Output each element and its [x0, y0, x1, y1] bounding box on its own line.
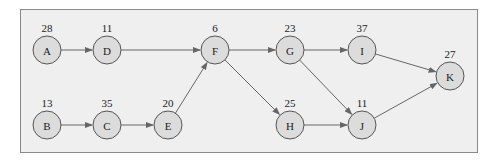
node-label: K	[446, 71, 454, 83]
node-label: G	[286, 45, 294, 57]
node-j: J11	[348, 97, 376, 139]
edge-e-f	[175, 63, 207, 113]
duration-label: 6	[212, 22, 218, 34]
duration-label: 20	[163, 97, 175, 109]
edges-layer	[61, 50, 437, 125]
node-e: E20	[154, 97, 182, 139]
duration-label: 25	[285, 97, 297, 109]
node-d: D11	[93, 22, 121, 64]
node-label: A	[43, 45, 51, 57]
edge-f-h	[225, 60, 279, 114]
node-label: H	[286, 120, 294, 132]
edge-i-k	[375, 54, 435, 72]
duration-label: 35	[102, 97, 114, 109]
node-c: C35	[93, 97, 121, 139]
duration-label: 37	[357, 22, 369, 34]
node-label: C	[103, 120, 110, 132]
node-label: E	[165, 120, 172, 132]
duration-label: 27	[445, 48, 457, 60]
duration-label: 11	[102, 22, 113, 34]
node-k: K27	[436, 48, 464, 90]
duration-label: 11	[357, 97, 368, 109]
duration-label: 13	[42, 97, 54, 109]
node-i: I37	[348, 22, 376, 64]
node-label: F	[212, 45, 218, 57]
network-diagram: A28D11F6G23I37K27B13C35E20H25J11	[0, 0, 496, 162]
node-label: J	[360, 120, 365, 132]
node-a: A28	[33, 22, 61, 64]
node-label: B	[43, 120, 50, 132]
edge-g-j	[300, 60, 352, 114]
node-b: B13	[33, 97, 61, 139]
edge-j-k	[374, 83, 437, 118]
node-g: G23	[276, 22, 304, 64]
nodes-layer: A28D11F6G23I37K27B13C35E20H25J11	[33, 22, 464, 139]
duration-label: 23	[285, 22, 297, 34]
node-label: D	[103, 45, 111, 57]
node-h: H25	[276, 97, 304, 139]
node-label: I	[360, 45, 364, 57]
node-f: F6	[201, 22, 229, 64]
duration-label: 28	[42, 22, 54, 34]
